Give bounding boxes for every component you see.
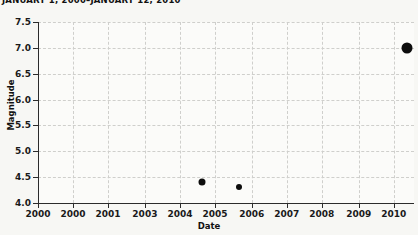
gridline-horizontal: [38, 48, 414, 49]
gridline-horizontal: [38, 74, 414, 75]
gridline-vertical: [287, 22, 288, 203]
x-axis-title: Date: [0, 221, 418, 231]
x-tick-label: 2004: [167, 209, 192, 219]
data-point: [199, 179, 206, 186]
gridline-vertical: [322, 22, 323, 203]
x-axis-spine: [38, 203, 414, 204]
x-tick-label: 2000: [25, 209, 50, 219]
y-tick-mark: [33, 74, 38, 75]
y-tick-label: 7.0: [0, 43, 31, 53]
y-tick-label: 4.0: [0, 198, 31, 208]
x-tick-label: 2000: [60, 209, 85, 219]
gridline-horizontal: [38, 125, 414, 126]
y-tick-mark: [33, 48, 38, 49]
x-tick-mark: [322, 203, 323, 208]
x-tick-label: 2008: [309, 209, 334, 219]
y-tick-mark: [33, 100, 38, 101]
x-tick-label: 2006: [239, 209, 264, 219]
y-axis-title: Magnitude: [6, 70, 16, 140]
gridline-horizontal: [38, 100, 414, 101]
chart-title: JANUARY 1, 2000–JANUARY 12, 2010: [2, 0, 181, 5]
x-tick-mark: [108, 203, 109, 208]
gridline-horizontal: [38, 22, 414, 23]
x-tick-label: 2010: [381, 209, 406, 219]
gridline-vertical: [359, 22, 360, 203]
x-tick-mark: [145, 203, 146, 208]
data-point: [401, 42, 412, 53]
plot-area: [38, 22, 414, 203]
x-tick-mark: [180, 203, 181, 208]
gridline-vertical: [215, 22, 216, 203]
gridline-vertical: [394, 22, 395, 203]
y-tick-mark: [33, 22, 38, 23]
x-tick-label: 2005: [202, 209, 227, 219]
y-axis-spine: [38, 22, 39, 203]
gridline-vertical: [73, 22, 74, 203]
chart-figure: JANUARY 1, 2000–JANUARY 12, 2010 4.04.55…: [0, 0, 418, 235]
gridline-vertical: [108, 22, 109, 203]
y-tick-label: 5.0: [0, 146, 31, 156]
x-tick-label: 2001: [96, 209, 121, 219]
x-tick-mark: [73, 203, 74, 208]
x-tick-mark: [287, 203, 288, 208]
gridline-horizontal: [38, 177, 414, 178]
y-tick-label: 7.5: [0, 17, 31, 27]
x-tick-label: 2007: [274, 209, 299, 219]
gridline-vertical: [180, 22, 181, 203]
gridline-vertical: [252, 22, 253, 203]
x-tick-label: 2009: [346, 209, 371, 219]
x-tick-mark: [252, 203, 253, 208]
y-tick-mark: [33, 177, 38, 178]
gridline-vertical: [145, 22, 146, 203]
x-tick-mark: [359, 203, 360, 208]
x-tick-mark: [394, 203, 395, 208]
y-tick-mark: [33, 151, 38, 152]
data-point: [236, 184, 242, 190]
x-tick-mark: [215, 203, 216, 208]
y-tick-label: 4.5: [0, 172, 31, 182]
x-tick-mark: [38, 203, 39, 208]
x-tick-label: 2003: [132, 209, 157, 219]
gridline-horizontal: [38, 151, 414, 152]
y-tick-mark: [33, 125, 38, 126]
